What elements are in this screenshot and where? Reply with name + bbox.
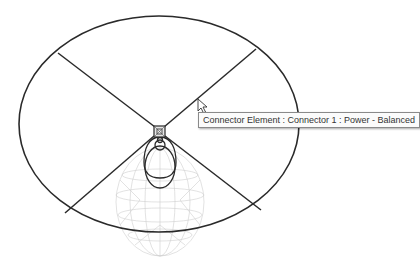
reference-line-diagonal-1[interactable]: [58, 53, 155, 127]
connector-element-marker[interactable]: [154, 126, 165, 137]
connector-tooltip: Connector Element : Connector 1 : Power …: [198, 112, 420, 128]
lamp-wireframe: [116, 148, 204, 256]
reference-line-diagonal-4[interactable]: [165, 136, 261, 210]
